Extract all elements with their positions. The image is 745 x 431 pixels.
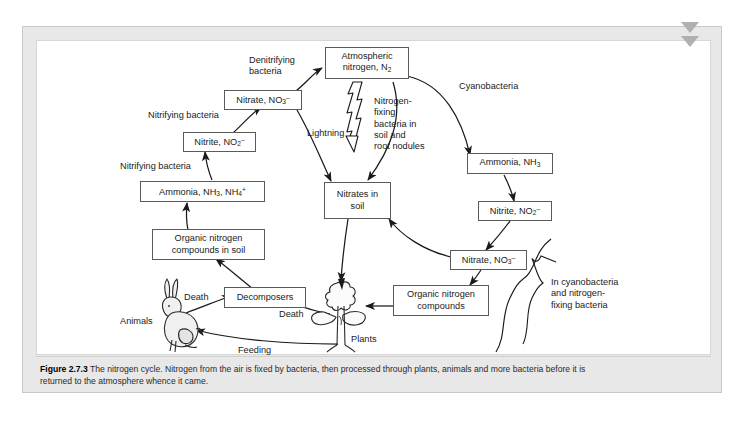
label-in-cyanobacteria-note: In cyanobacteriaand nitrogen-fixing bact…	[551, 277, 643, 311]
label-nitrifying-bacteria-upper: Nitrifying bacteria	[148, 110, 219, 121]
node-nitrate-left: Nitrate, NO3–	[224, 90, 302, 110]
figure-caption: Figure 2.7.3 The nitrogen cycle. Nitroge…	[40, 363, 600, 387]
label-text: Nitrifying bacteria	[120, 161, 191, 171]
caption-divider	[36, 356, 711, 357]
label-text: Denitrifyingbacteria	[249, 55, 295, 76]
node-label: Nitrate, NO3–	[236, 92, 289, 108]
label-text: In cyanobacteriaand nitrogen-fixing bact…	[551, 277, 618, 310]
label-denitrifying-bacteria: Denitrifyingbacteria	[249, 55, 319, 78]
label-text: Death	[279, 309, 304, 319]
label-plants: Plants	[351, 334, 377, 345]
label-text: Plants	[351, 334, 377, 344]
label-nitrogen-fixing-bacteria: Nitrogen-fixingbacteria insoil androot n…	[374, 96, 438, 152]
node-label: Nitrite, NO2–	[490, 203, 540, 219]
figure-caption-text: The nitrogen cycle. Nitrogen from the ai…	[40, 364, 585, 386]
node-organic-nitrogen-compounds: Organic nitrogencompounds	[393, 285, 489, 316]
node-label: Nitrates insoil	[337, 189, 378, 212]
triangle-down-icon	[681, 36, 699, 47]
label-text: Nitrifying bacteria	[148, 110, 219, 120]
label-text: Nitrogen-fixingbacteria insoil androot n…	[374, 96, 425, 151]
node-label: Nitrate, NO3–	[462, 252, 515, 268]
node-nitrite-right: Nitrite, NO2–	[478, 201, 552, 221]
label-death-plants: Death	[279, 309, 304, 320]
node-label: Ammonia, NH3, NH4+	[159, 184, 246, 200]
node-label: Nitrite, NO2–	[194, 134, 244, 150]
figure-number: Figure 2.7.3	[40, 364, 88, 374]
label-cyanobacteria: Cyanobacteria	[459, 81, 518, 92]
node-label: Decomposers	[237, 292, 294, 304]
node-label: Ammonia, NH3	[480, 157, 541, 170]
node-atmospheric-nitrogen: Atmosphericnitrogen, N2	[325, 47, 409, 79]
label-text: Lightning	[307, 128, 344, 138]
triangle-down-icon	[681, 22, 699, 33]
node-label: Organic nitrogencompounds	[407, 289, 475, 312]
label-death-animals: Death	[184, 292, 209, 303]
label-lightning: Lightning	[307, 128, 344, 139]
label-animals: Animals	[120, 316, 153, 327]
node-nitrate-right: Nitrate, NO3–	[450, 250, 527, 270]
node-nitrates-in-soil: Nitrates insoil	[324, 182, 391, 219]
node-label: Organic nitrogencompounds in soil	[172, 233, 246, 256]
node-decomposers: Decomposers	[224, 287, 306, 308]
label-text: Death	[184, 292, 209, 302]
node-ammonia-right: Ammonia, NH3	[467, 153, 553, 174]
node-organic-nitrogen-soil: Organic nitrogencompounds in soil	[152, 229, 265, 260]
figure-page: Atmosphericnitrogen, N2 Nitrate, NO3– Ni…	[0, 0, 745, 431]
node-nitrite-left: Nitrite, NO2–	[183, 132, 256, 152]
label-text: Feeding	[238, 345, 271, 355]
label-text: Animals	[120, 316, 153, 326]
node-ammonia-left: Ammonia, NH3, NH4+	[140, 181, 265, 202]
label-nitrifying-bacteria-lower: Nitrifying bacteria	[120, 161, 191, 172]
label-text: Cyanobacteria	[459, 81, 518, 91]
label-feeding: Feeding	[238, 345, 271, 356]
node-label: Atmosphericnitrogen, N2	[341, 51, 392, 76]
